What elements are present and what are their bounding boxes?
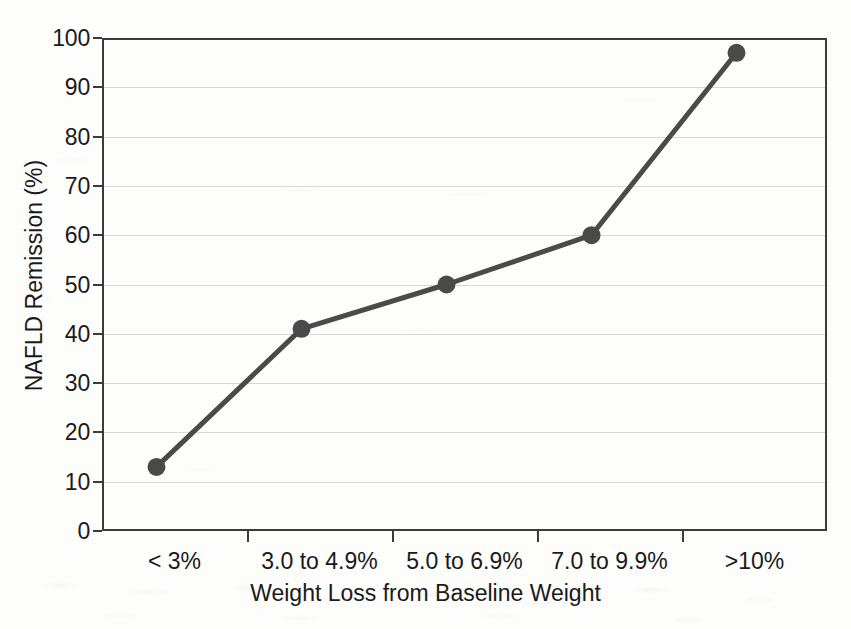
x-axis-category-label: >10% bbox=[725, 548, 784, 575]
y-axis-tick-label: 60 bbox=[65, 222, 90, 249]
y-axis-tick-label: 20 bbox=[65, 419, 90, 446]
y-axis-tick-mark bbox=[93, 333, 102, 335]
x-axis-tick-mark bbox=[392, 531, 394, 542]
gridline bbox=[104, 137, 825, 138]
gridline bbox=[104, 186, 825, 187]
y-axis-tick-mark bbox=[93, 530, 102, 532]
y-axis-tick-label: 10 bbox=[65, 469, 90, 496]
x-axis-category-label: 3.0 to 4.9% bbox=[261, 548, 377, 575]
gridline bbox=[104, 285, 825, 286]
x-axis-tick-mark bbox=[247, 531, 249, 542]
chart-page: NAFLD Remission (%) 01020304050607080901… bbox=[0, 0, 851, 629]
y-axis-tick-label: 80 bbox=[65, 124, 90, 151]
y-axis-tick-label: 30 bbox=[65, 370, 90, 397]
y-axis-tick-mark bbox=[93, 136, 102, 138]
y-axis-tick-label: 50 bbox=[65, 272, 90, 299]
gridline bbox=[104, 235, 825, 236]
x-axis-title: Weight Loss from Baseline Weight bbox=[0, 580, 851, 607]
y-axis-tick-mark bbox=[93, 382, 102, 384]
x-axis-category-label: < 3% bbox=[148, 548, 201, 575]
y-axis-tick-label: 100 bbox=[52, 25, 90, 52]
y-axis-tick-mark bbox=[93, 431, 102, 433]
x-axis-category-label: 5.0 to 6.9% bbox=[406, 548, 522, 575]
y-axis-tick-label: 90 bbox=[65, 74, 90, 101]
y-axis-tick-mark bbox=[93, 185, 102, 187]
gridline bbox=[104, 383, 825, 384]
y-axis-tick-mark bbox=[93, 86, 102, 88]
x-axis-category-label: 7.0 to 9.9% bbox=[551, 548, 667, 575]
gridline bbox=[104, 482, 825, 483]
x-axis-tick-mark bbox=[537, 531, 539, 542]
gridline bbox=[104, 432, 825, 433]
x-axis-tick-mark bbox=[682, 531, 684, 542]
y-axis-tick-label: 0 bbox=[77, 518, 90, 545]
plot-area bbox=[102, 38, 827, 531]
y-axis-tick-label: 40 bbox=[65, 321, 90, 348]
y-axis-tick-mark bbox=[93, 37, 102, 39]
y-axis-tick-mark bbox=[93, 481, 102, 483]
y-axis-tick-mark bbox=[93, 234, 102, 236]
gridline bbox=[104, 87, 825, 88]
y-axis-title: NAFLD Remission (%) bbox=[21, 76, 48, 476]
y-axis-tick-label: 70 bbox=[65, 173, 90, 200]
y-axis-tick-mark bbox=[93, 284, 102, 286]
gridline bbox=[104, 334, 825, 335]
